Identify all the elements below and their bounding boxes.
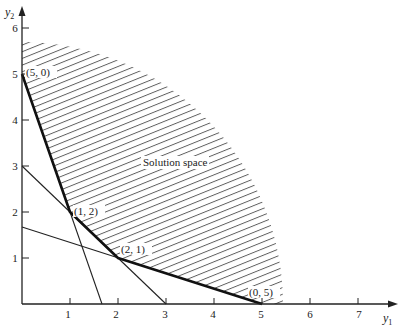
y-tick-label: 5 xyxy=(12,68,18,80)
x-tick-label: 1 xyxy=(65,308,71,320)
x-ticks xyxy=(70,298,358,304)
x-tick-labels: 1 2 3 4 5 6 7 xyxy=(65,308,362,320)
y-tick-label: 4 xyxy=(12,114,18,126)
solution-space-label: Solution space xyxy=(143,156,208,168)
x-tick-label: 2 xyxy=(113,308,119,320)
corner-label-0-5: (5, 0) xyxy=(26,66,50,79)
y-tick-label: 2 xyxy=(12,206,18,218)
diagram-canvas: Solution space 1 2 3 4 5 6 7 xyxy=(0,0,419,334)
y-tick-label: 1 xyxy=(12,252,18,264)
y-tick-label: 3 xyxy=(12,160,18,172)
solution-space-label-group: Solution space xyxy=(141,156,209,169)
corner-label-5-0: (0, 5) xyxy=(249,286,273,299)
x-tick-label: 4 xyxy=(210,308,216,320)
x-axis-arrow-icon xyxy=(388,301,398,308)
x-tick-label: 6 xyxy=(307,308,313,320)
y-axis-arrow-icon xyxy=(19,6,26,16)
corner-label-1-2: (1, 2) xyxy=(74,205,98,218)
x-tick-label: 3 xyxy=(162,308,168,320)
corner-label-2-1: (2, 1) xyxy=(121,243,145,256)
solution-space-region xyxy=(0,0,419,334)
y-tick-label: 6 xyxy=(12,22,18,34)
y-axis-label: y2 xyxy=(4,5,14,21)
x-tick-label: 7 xyxy=(356,308,362,320)
y-tick-labels: 1 2 3 4 5 6 xyxy=(12,22,18,264)
x-tick-label: 5 xyxy=(258,308,264,320)
x-axis-label: y1 xyxy=(382,311,392,327)
